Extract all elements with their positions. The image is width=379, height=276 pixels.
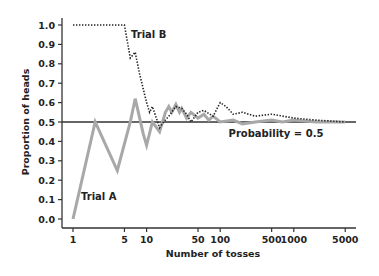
- probability-label: Probability = 0.5: [229, 128, 324, 139]
- x-tick-label: 1000: [281, 234, 308, 245]
- y-tick-label: 1.0: [38, 20, 55, 31]
- coin-toss-chart: 0.00.10.20.30.40.50.60.70.80.91.0 151050…: [0, 0, 379, 276]
- y-tick-label: 0.4: [38, 136, 55, 147]
- x-axis-title: Number of tosses: [166, 248, 261, 259]
- y-tick-label: 0.1: [38, 194, 55, 205]
- x-tick-label: 5000: [332, 234, 359, 245]
- y-tick-label: 0.6: [38, 97, 55, 108]
- y-axis-title: Proportion of heads: [20, 68, 31, 175]
- x-tick-label: 100: [210, 234, 230, 245]
- x-tick-label: 1: [70, 234, 77, 245]
- y-tick-label: 0.2: [38, 175, 55, 186]
- x-tick-label: 10: [140, 234, 154, 245]
- y-tick-label: 0.8: [38, 58, 55, 69]
- x-axis: 15105010050010005000: [62, 228, 359, 245]
- trial-b-label: Trial B: [131, 29, 166, 40]
- x-tick-label: 50: [191, 234, 205, 245]
- x-tick-label: 5: [121, 234, 128, 245]
- trial-b-series: [73, 25, 345, 128]
- y-tick-label: 0.3: [38, 155, 55, 166]
- y-tick-label: 0.5: [38, 117, 55, 128]
- y-tick-label: 0.0: [38, 214, 55, 225]
- y-axis: 0.00.10.20.30.40.50.60.70.80.91.0: [38, 18, 62, 228]
- trial-a-label: Trial A: [81, 191, 117, 202]
- y-tick-label: 0.7: [38, 78, 55, 89]
- x-tick-label: 500: [262, 234, 282, 245]
- y-tick-label: 0.9: [38, 39, 55, 50]
